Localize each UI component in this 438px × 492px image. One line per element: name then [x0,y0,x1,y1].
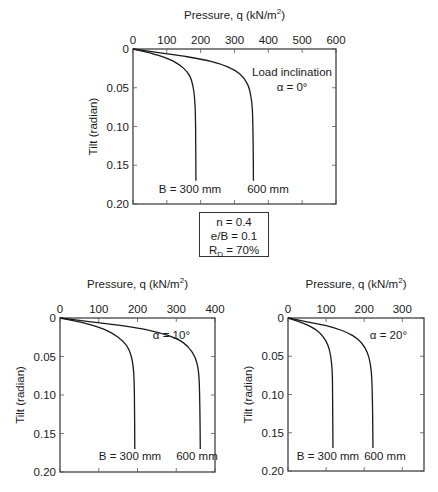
x-tick-label: 100 [89,303,108,315]
curve-label-b600: 600 mm [247,183,289,195]
y-tick-label: 0.20 [34,466,56,478]
y-tick-label: 0.05 [34,351,56,363]
curve-b300 [288,318,333,448]
y-tick-label: 0 [123,43,129,55]
curve-label-b600: 600 mm [176,450,218,462]
curve-label-b300: B = 300 mm [99,450,161,462]
x-tick-label: 400 [259,34,278,46]
inclination-annotation: Load inclination [252,66,332,78]
inclination-annotation: α = 10° [153,329,190,341]
x-tick-label: 400 [205,303,224,315]
x-tick-label: 300 [225,34,244,46]
y-tick-label: 0 [50,312,56,324]
y-tick-label: 0.10 [107,121,129,133]
y-axis-title: Tilt (radian) [14,366,26,424]
y-tick-label: 0.20 [262,465,284,477]
chart-alpha-0: 010020030040050060000.050.100.150.20Pres… [87,7,346,210]
x-axis-title: Pressure, q (kN/m2) [306,276,407,290]
y-tick-label: 0.05 [107,82,129,94]
y-tick-label: 0.10 [262,389,284,401]
param-n: n = 0.4 [200,215,268,229]
chart-alpha-20: 010020030000.050.100.150.20Pressure, q (… [242,276,424,477]
plot-frame [60,318,215,472]
x-tick-label: 200 [191,34,210,46]
x-tick-label: 0 [57,303,63,315]
x-tick-label: 300 [393,303,412,315]
x-tick-label: 500 [293,34,312,46]
x-tick-label: 200 [128,303,147,315]
x-tick-label: 100 [317,303,336,315]
y-tick-label: 0.15 [107,159,129,171]
y-axis-title: Tilt (radian) [242,365,254,423]
y-tick-label: 0.15 [34,428,56,440]
inclination-annotation: α = 20° [370,329,407,341]
x-tick-label: 0 [130,34,136,46]
curve-b600 [288,318,373,448]
curve-label-b300: B = 300 mm [159,183,221,195]
param-rd: RD = 70% [200,243,268,262]
x-tick-label: 100 [157,34,176,46]
y-tick-label: 0.20 [107,198,129,210]
curve-label-b600: 600 mm [364,450,406,462]
inclination-annotation: α = 0° [277,81,308,93]
parameters-box: n = 0.4 e/B = 0.1 RD = 70% [199,212,269,257]
y-axis-title: Tilt (radian) [87,97,99,155]
curve-b300 [60,318,135,449]
x-axis-title: Pressure, q (kN/m2) [87,276,188,290]
y-tick-label: 0.15 [262,427,284,439]
x-tick-label: 200 [355,303,374,315]
param-eb: e/B = 0.1 [200,229,268,243]
x-tick-label: 0 [285,303,291,315]
chart-alpha-10: 010020030040000.050.100.150.20Pressure, … [14,276,225,478]
curve-b600 [133,49,253,181]
curve-label-b300: B = 300 mm [297,450,359,462]
y-tick-label: 0 [278,312,284,324]
x-axis-title: Pressure, q (kN/m2) [184,7,285,21]
x-tick-label: 600 [326,34,345,46]
curve-b300 [133,49,196,181]
y-tick-label: 0.10 [34,389,56,401]
y-tick-label: 0.05 [262,350,284,362]
x-tick-label: 300 [167,303,186,315]
